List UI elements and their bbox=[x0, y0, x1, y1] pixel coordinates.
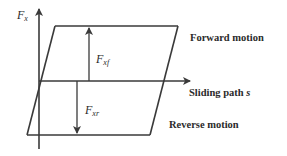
y-axis-subscript: x bbox=[24, 14, 28, 23]
forward-force-subscript: xf bbox=[103, 58, 109, 67]
x-axis-symbol: s bbox=[246, 87, 250, 98]
forward-force-label: Fxf bbox=[96, 53, 109, 67]
reverse-force-label: Fxr bbox=[85, 104, 99, 118]
x-axis-label: Sliding path s bbox=[189, 88, 250, 99]
forward-motion-label: Forward motion bbox=[190, 33, 264, 44]
diagram-canvas bbox=[0, 0, 287, 156]
x-axis-label-text: Sliding path bbox=[189, 87, 246, 98]
friction-force-diagram: Fx Fxf Fxr Forward motion Sliding path s… bbox=[0, 0, 287, 156]
reverse-force-subscript: xr bbox=[92, 109, 99, 118]
y-axis-label: Fx bbox=[17, 9, 28, 23]
reverse-motion-label: Reverse motion bbox=[169, 120, 239, 131]
